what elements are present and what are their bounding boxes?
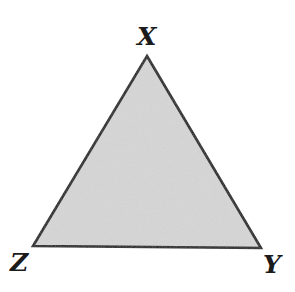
vertex-label-z: Z <box>10 250 28 275</box>
vertex-label-x: X <box>137 24 156 49</box>
triangle-shape <box>33 56 261 248</box>
vertex-label-y: Y <box>263 252 281 277</box>
geometry-figure-canvas: X Z Y <box>0 0 295 292</box>
